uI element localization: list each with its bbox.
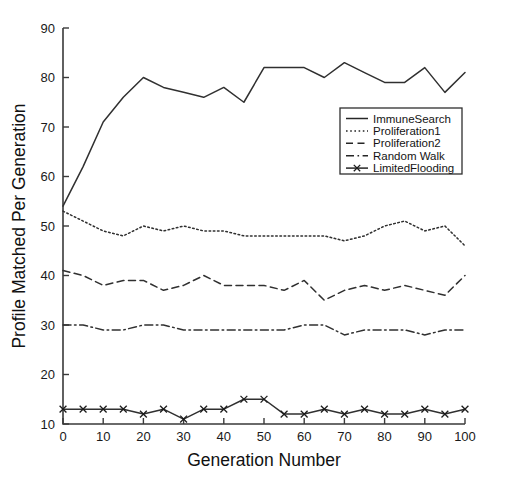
- x-tick-label: 80: [377, 429, 391, 444]
- y-tick-label: 60: [41, 169, 55, 184]
- legend-label: Proliferation2: [373, 137, 441, 149]
- y-tick-label: 50: [41, 219, 55, 234]
- legend-label: Random Walk: [373, 150, 445, 162]
- line-chart: 0102030405060708090100 10203040506070809…: [0, 0, 513, 477]
- legend-label: LimitedFlooding: [373, 162, 454, 174]
- legend-label: Proliferation1: [373, 125, 441, 137]
- x-tick-label: 40: [217, 429, 231, 444]
- y-tick-label: 40: [41, 268, 55, 283]
- x-axis-title: Generation Number: [187, 450, 341, 470]
- chart-container: 0102030405060708090100 10203040506070809…: [0, 0, 513, 477]
- x-tick-label: 100: [454, 429, 476, 444]
- y-tick-label: 20: [41, 367, 55, 382]
- x-tick-label: 90: [418, 429, 432, 444]
- y-tick-label: 80: [41, 70, 55, 85]
- x-tick-label: 10: [96, 429, 110, 444]
- legend-label: ImmuneSearch: [373, 113, 451, 125]
- chart-legend: ImmuneSearchProliferation1Proliferation2…: [340, 108, 462, 174]
- x-tick-label: 50: [257, 429, 271, 444]
- y-tick-label: 30: [41, 318, 55, 333]
- y-tick-label: 90: [41, 21, 55, 36]
- x-tick-label: 0: [59, 429, 66, 444]
- x-tick-label: 60: [297, 429, 311, 444]
- x-tick-label: 30: [176, 429, 190, 444]
- x-tick-label: 70: [337, 429, 351, 444]
- y-tick-label: 70: [41, 120, 55, 135]
- y-tick-label: 10: [41, 417, 55, 432]
- x-tick-label: 20: [136, 429, 150, 444]
- y-axis-title: Profile Matched Per Generation: [9, 103, 29, 348]
- chart-background: [0, 0, 513, 477]
